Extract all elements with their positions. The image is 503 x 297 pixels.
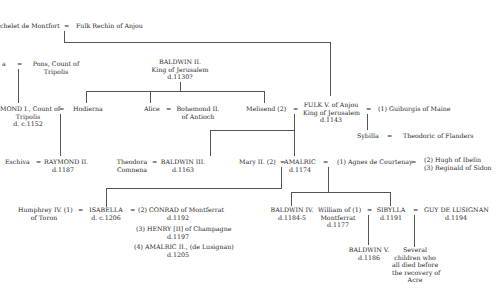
- name-line: MOND I., Count of: [0, 105, 56, 113]
- person-humphrey-iv: Humphrey IV. (1) of Toron: [18, 206, 70, 221]
- marriage-symbol: =: [323, 158, 328, 166]
- marriage-symbol: =: [413, 206, 418, 214]
- note-several-children: Several children who all died before the…: [392, 246, 438, 284]
- marriage-symbol: =: [166, 105, 171, 113]
- name-line: d. c.1206: [88, 214, 124, 222]
- marriage-symbol: =: [387, 132, 392, 140]
- name-line: SIBYLLA: [376, 206, 406, 214]
- name-line: d.1177: [318, 221, 358, 229]
- marriage-symbol: =: [367, 206, 372, 214]
- name-line: FULK V. of Anjou: [303, 101, 359, 109]
- name-line: d.1194: [424, 214, 488, 222]
- marriage-symbol: =: [17, 60, 22, 68]
- name-line: d.1197: [136, 233, 220, 241]
- name-line: Acre: [392, 276, 438, 284]
- person-baldwin-iv: BALDWIN IV. d.1184-5: [270, 206, 314, 221]
- name-line: Several: [392, 246, 438, 254]
- person-mary-ii: Mary II. (2): [239, 158, 276, 166]
- person-william: William of (1) Montferrat d.1177: [318, 206, 358, 229]
- name-line: King of Jerusalem: [303, 109, 359, 117]
- name-line: (4) AMALRIC II., (de Lusignan): [134, 243, 222, 251]
- name-line: children who: [392, 254, 438, 262]
- person-montfort: chelet de Montfort: [0, 22, 60, 30]
- name-line: d.1192: [138, 214, 218, 222]
- person-hugh-reginald: (2) Hugh of Ibelin (3) Reginald of Sidon: [424, 156, 492, 171]
- name-line: ISABELLA: [88, 206, 124, 214]
- descent-line: [150, 91, 151, 103]
- person-theodora: Theodora Comnena: [115, 158, 149, 173]
- person-melisend: Melisend (2): [246, 105, 286, 113]
- person-amalric-ii: (4) AMALRIC II., (de Lusignan) d.1205: [134, 243, 222, 258]
- name-line: d.1174: [283, 166, 317, 174]
- name-line: BALDWIN V.: [348, 246, 390, 254]
- name-line: d.1143: [303, 116, 359, 124]
- name-line: BALDWIN III.: [160, 158, 206, 166]
- descent-line: [281, 167, 282, 189]
- descent-line: [106, 188, 107, 207]
- name-line: BALDWIN II.: [150, 58, 210, 66]
- name-line: of Toron: [18, 214, 70, 222]
- marriage-symbol: =: [366, 105, 371, 113]
- person-baldwin-v: BALDWIN V. d.1186: [348, 246, 390, 261]
- name-line: d. c.1152: [0, 120, 56, 128]
- name-line: (3) Reginald of Sidon: [424, 164, 492, 172]
- name-line: d.1130?: [150, 73, 210, 81]
- name-line: Montferrat: [318, 214, 358, 222]
- person-bohemond-ii: Bohemond II. of Antioch: [176, 105, 220, 120]
- descent-line: [294, 114, 295, 131]
- name-line: d.1187: [44, 166, 82, 174]
- person-fulk-v: FULK V. of Anjou King of Jerusalem d.114…: [303, 101, 359, 124]
- descent-line: [367, 114, 368, 130]
- descent-line: [86, 91, 265, 92]
- person-henry: (3) HENRY [II] of Champagne d.1197: [136, 225, 220, 240]
- name-line: of Antioch: [176, 113, 220, 121]
- descent-line: [106, 188, 282, 189]
- name-line: the recovery of: [392, 269, 438, 277]
- descent-line: [330, 42, 331, 96]
- person-cecilia: a: [2, 60, 6, 68]
- person-fulk-rechin: Fulk Rechin of Anjou: [76, 22, 143, 30]
- person-theodoric: Theodoric of Flanders: [403, 132, 473, 140]
- person-conrad: (2) CONRAD of Montferrat d.1192: [138, 206, 218, 221]
- person-eschiva: Eschiva: [5, 158, 30, 166]
- person-pons: Pons, Count of Tripolis: [30, 60, 82, 75]
- name-line: Comnena: [115, 166, 149, 174]
- name-line: (2) Hugh of Ibelin: [424, 156, 492, 164]
- descent-line: [414, 215, 415, 247]
- person-alice: Alice: [144, 105, 160, 113]
- person-hodierna: Hodierna: [73, 105, 103, 113]
- name-line: Tripolis: [30, 68, 82, 76]
- name-line: GUY DE LUSIGNAN: [424, 206, 488, 214]
- name-line: Pons, Count of: [30, 60, 82, 68]
- person-sibylla: SIBYLLA d.1191: [376, 206, 406, 221]
- descent-line: [294, 130, 295, 156]
- person-raymond-ii: RAYMOND II. d.1187: [44, 158, 82, 173]
- name-line: d.1205: [134, 251, 222, 259]
- name-line: Humphrey IV. (1): [18, 206, 70, 214]
- descent-line: [368, 215, 369, 245]
- name-line: (2) CONRAD of Montferrat: [138, 206, 218, 214]
- name-line: all died before: [392, 261, 438, 269]
- person-baldwin-iii: BALDWIN III. d.1163: [160, 158, 206, 173]
- person-raymond-i: MOND I., Count of Tripolis d. c.1152: [0, 105, 56, 128]
- name-line: RAYMOND II.: [44, 158, 82, 166]
- descent-line: [86, 91, 87, 103]
- name-line: d.1163: [160, 166, 206, 174]
- descent-line: [210, 130, 211, 156]
- name-line: King of Jerusalem: [150, 66, 210, 74]
- person-guiburgis: (1) Guiburgis of Maine: [378, 105, 451, 113]
- name-line: d.1184-5: [270, 214, 314, 222]
- descent-line: [328, 167, 329, 193]
- person-agnes: (1) Agnes de Courtenay: [337, 158, 413, 166]
- person-amalric: AMALRIC d.1174: [283, 158, 317, 173]
- marriage-symbol: =: [152, 158, 157, 166]
- name-line: AMALRIC: [283, 158, 317, 166]
- descent-line: [390, 192, 391, 206]
- descent-line: [60, 114, 61, 156]
- name-line: (3) HENRY [II] of Champagne: [136, 225, 220, 233]
- descent-line: [264, 91, 265, 103]
- descent-line: [210, 130, 295, 131]
- descent-line: [291, 192, 292, 206]
- name-line: Theodora: [115, 158, 149, 166]
- marriage-symbol: =: [59, 105, 64, 113]
